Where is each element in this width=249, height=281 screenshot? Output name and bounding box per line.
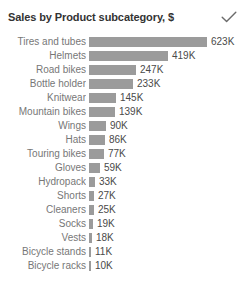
bar[interactable] bbox=[89, 191, 94, 201]
chart-header: Sales by Product subcategory, $ bbox=[0, 0, 249, 26]
bar[interactable] bbox=[89, 93, 116, 103]
bar-container: 419K bbox=[86, 49, 249, 63]
bar[interactable] bbox=[89, 261, 91, 271]
bar-container: 247K bbox=[86, 63, 249, 77]
bar-container: 19K bbox=[86, 217, 249, 231]
bar-container: 90K bbox=[86, 119, 249, 133]
bar-value-label: 86K bbox=[109, 133, 127, 147]
chart-bar-row[interactable]: Knitwear145K bbox=[0, 91, 249, 105]
bar-value-label: 10K bbox=[95, 259, 113, 273]
chart-bar-row[interactable]: Helmets419K bbox=[0, 49, 249, 63]
bar[interactable] bbox=[89, 163, 100, 173]
category-label: Hats bbox=[0, 133, 86, 147]
bar-container: 25K bbox=[86, 203, 249, 217]
category-label: Touring bikes bbox=[0, 147, 86, 161]
bar-value-label: 419K bbox=[172, 49, 195, 63]
bar-value-label: 623K bbox=[211, 35, 234, 49]
bar-container: 59K bbox=[86, 161, 249, 175]
chart-bar-row[interactable]: Socks19K bbox=[0, 217, 249, 231]
bar-container: 86K bbox=[86, 133, 249, 147]
bar-container: 11K bbox=[86, 245, 249, 259]
chart-bar-row[interactable]: Cleaners25K bbox=[0, 203, 249, 217]
bar-container: 139K bbox=[86, 105, 249, 119]
bar[interactable] bbox=[89, 121, 106, 131]
bar-container: 10K bbox=[86, 259, 249, 273]
bar[interactable] bbox=[89, 177, 95, 187]
bar-value-label: 77K bbox=[108, 147, 126, 161]
bar-value-label: 145K bbox=[120, 91, 143, 105]
chart-bar-row[interactable]: Tires and tubes623K bbox=[0, 35, 249, 49]
bar-value-label: 11K bbox=[95, 245, 112, 259]
chart-title: Sales by Product subcategory, $ bbox=[8, 11, 174, 23]
chart-bar-row[interactable]: Bottle holder233K bbox=[0, 77, 249, 91]
bar-value-label: 19K bbox=[97, 217, 115, 231]
chart-bar-row[interactable]: Touring bikes77K bbox=[0, 147, 249, 161]
bar-value-label: 233K bbox=[137, 77, 160, 91]
chart-plot-area: Tires and tubes623KHelmets419KRoad bikes… bbox=[0, 26, 249, 273]
bar-container: 145K bbox=[86, 91, 249, 105]
category-label: Bottle holder bbox=[0, 77, 86, 91]
bar[interactable] bbox=[89, 219, 93, 229]
category-label: Tires and tubes bbox=[0, 35, 86, 49]
bar-value-label: 25K bbox=[98, 203, 116, 217]
chart-bar-row[interactable]: Road bikes247K bbox=[0, 63, 249, 77]
category-label: Mountain bikes bbox=[0, 105, 86, 119]
bar[interactable] bbox=[89, 107, 115, 117]
bar[interactable] bbox=[89, 205, 94, 215]
chart-bar-row[interactable]: Bicycle racks10K bbox=[0, 259, 249, 273]
category-label: Shorts bbox=[0, 189, 86, 203]
category-label: Gloves bbox=[0, 161, 86, 175]
bar-value-label: 139K bbox=[119, 105, 142, 119]
bar-container: 623K bbox=[86, 35, 249, 49]
bar[interactable] bbox=[89, 79, 133, 89]
checkmark-icon[interactable] bbox=[219, 7, 239, 27]
chart-bar-row[interactable]: Bicycle stands11K bbox=[0, 245, 249, 259]
category-label: Vests bbox=[0, 231, 86, 245]
category-label: Bicycle stands bbox=[0, 245, 86, 259]
category-label: Helmets bbox=[0, 49, 86, 63]
category-label: Bicycle racks bbox=[0, 259, 86, 273]
sales-by-subcategory-chart-card: Sales by Product subcategory, $ Tires an… bbox=[0, 0, 249, 281]
category-label: Socks bbox=[0, 217, 86, 231]
bar-container: 18K bbox=[86, 231, 249, 245]
category-label: Road bikes bbox=[0, 63, 86, 77]
bar-value-label: 27K bbox=[98, 189, 116, 203]
category-label: Wings bbox=[0, 119, 86, 133]
chart-bar-row[interactable]: Wings90K bbox=[0, 119, 249, 133]
bar[interactable] bbox=[89, 233, 92, 243]
chart-bar-row[interactable]: Hats86K bbox=[0, 133, 249, 147]
bar-value-label: 90K bbox=[110, 119, 128, 133]
chart-bar-row[interactable]: Gloves59K bbox=[0, 161, 249, 175]
bar[interactable] bbox=[89, 65, 136, 75]
bar[interactable] bbox=[89, 247, 91, 257]
bar[interactable] bbox=[89, 37, 207, 47]
category-label: Hydropack bbox=[0, 175, 86, 189]
bar-value-label: 33K bbox=[99, 175, 117, 189]
bar-value-label: 247K bbox=[140, 63, 163, 77]
bar[interactable] bbox=[89, 149, 104, 159]
bar[interactable] bbox=[89, 51, 168, 61]
bar-value-label: 18K bbox=[96, 231, 114, 245]
bar-container: 77K bbox=[86, 147, 249, 161]
chart-bar-row[interactable]: Mountain bikes139K bbox=[0, 105, 249, 119]
bar-container: 27K bbox=[86, 189, 249, 203]
chart-bar-row[interactable]: Vests18K bbox=[0, 231, 249, 245]
chart-bar-row[interactable]: Shorts27K bbox=[0, 189, 249, 203]
chart-bar-row[interactable]: Hydropack33K bbox=[0, 175, 249, 189]
bar[interactable] bbox=[89, 135, 105, 145]
bar-container: 233K bbox=[86, 77, 249, 91]
category-label: Cleaners bbox=[0, 203, 86, 217]
bar-value-label: 59K bbox=[104, 161, 122, 175]
bar-container: 33K bbox=[86, 175, 249, 189]
category-label: Knitwear bbox=[0, 91, 86, 105]
